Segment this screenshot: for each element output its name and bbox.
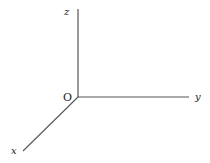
coordinate-axes-diagram: z O y x	[0, 0, 210, 163]
x-axis-line	[23, 97, 78, 151]
x-axis-label: x	[11, 145, 17, 156]
y-axis-label: y	[194, 91, 201, 102]
z-axis-label: z	[63, 6, 70, 17]
origin-label: O	[63, 91, 72, 104]
